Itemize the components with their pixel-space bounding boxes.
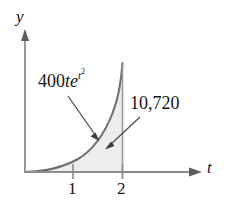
tick-label-1: 1	[68, 180, 77, 197]
curve-equation-label: 400tet2	[38, 69, 85, 90]
equation-coefficient: 400	[38, 71, 65, 91]
t-axis-label: t	[207, 159, 212, 176]
area-under-curve-figure: y t 1 2 400tet2 10,720	[0, 0, 228, 209]
y-axis-label: y	[16, 8, 24, 25]
curve-leader-arrowhead	[91, 133, 100, 142]
equation-exponent-power: 2	[81, 67, 85, 76]
curve-leader-line	[68, 96, 96, 136]
area-value-label: 10,720	[130, 94, 180, 112]
equation-exponent: t2	[78, 69, 85, 81]
equation-base: e	[70, 71, 78, 91]
y-axis-arrowhead	[21, 29, 29, 41]
tick-label-2: 2	[117, 180, 126, 197]
figure-canvas	[0, 0, 228, 209]
t-axis-arrowhead	[189, 168, 202, 177]
